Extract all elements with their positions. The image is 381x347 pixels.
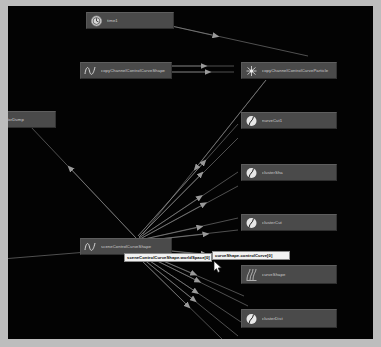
- edge-scene-to-clusterCut: [140, 218, 238, 240]
- edge-scene-lower-d-arrow: [136, 255, 188, 306]
- edge-particle-to-scene: [143, 80, 266, 234]
- connection-tooltip-source[interactable]: sceneControlCurveShape.worldSpace[0]: [124, 253, 212, 262]
- circle-icon: [244, 216, 259, 229]
- connection-tooltip-destination[interactable]: curveShape.controlCurve[0]: [212, 251, 290, 260]
- mouse-cursor: [213, 260, 223, 274]
- edge-scene-to-clusterSha-b: [140, 186, 238, 239]
- graph-node-clustercut[interactable]: clusterCut: [241, 214, 337, 231]
- graph-canvas[interactable]: time1 copyChannelControlCurveShape: [8, 6, 373, 339]
- node-label: time1: [107, 18, 173, 24]
- curve-icon: [83, 64, 98, 77]
- graph-node-copychannelcontrolcurveshape[interactable]: copyChannelControlCurveShape: [80, 62, 172, 79]
- deform-icon: [244, 268, 259, 281]
- particle-icon: [244, 64, 259, 77]
- edge-scene-to-nurveCut1: [138, 124, 238, 236]
- clock-icon: [89, 14, 104, 27]
- edge-scene-to-clusterDist: [138, 253, 244, 324]
- edge-time1-to-particle: [158, 23, 308, 56]
- edge-scene-to-nurveCut1-b-arrow: [139, 174, 201, 237]
- node-label: clusterDist: [262, 316, 336, 322]
- circle-icon: [244, 114, 259, 127]
- node-label: nurveCut1: [262, 118, 336, 124]
- circle-icon: [244, 312, 259, 325]
- edge-scene-to-nurveCut1-b: [139, 138, 238, 237]
- circle-icon: [244, 166, 259, 179]
- node-label: clusterCut: [262, 220, 336, 226]
- graph-node-copychannelcontrolcurveparticle[interactable]: copyChannelControlCurveParticle: [241, 62, 337, 79]
- hypergraph-window: time1 copyChannelControlCurveShape: [0, 0, 381, 347]
- node-label: curveShape: [262, 272, 336, 278]
- curve-icon: [83, 240, 98, 253]
- node-label: clusterSha: [262, 170, 336, 176]
- edge-scene-to-clusterSha-arrow: [139, 197, 200, 238]
- graph-node-time1[interactable]: time1: [86, 12, 174, 29]
- edge-scene-to-dump: [30, 126, 136, 238]
- graph-node-curveshape[interactable]: curveShape: [241, 265, 337, 284]
- graph-node-clusterdist[interactable]: clusterDist: [241, 309, 337, 328]
- graph-node-nurvecut1[interactable]: nurveCut1: [241, 112, 337, 129]
- edge-scene-to-clusterSha: [139, 172, 238, 238]
- node-label: curveColorDump: [8, 117, 55, 123]
- node-label: copyChannelControlCurveParticle: [262, 68, 336, 74]
- edge-scene-to-dump-arrow: [70, 168, 136, 238]
- edge-scene-to-clusterSha-b-arrow: [140, 204, 204, 239]
- node-label: copyChannelControlCurveShape: [101, 68, 171, 74]
- node-label: sceneControlCurveShape: [101, 244, 171, 250]
- graph-node-curvecolordump[interactable]: curveColorDump: [8, 111, 56, 128]
- edge-scene-lower-c: [137, 254, 238, 336]
- graph-node-clustersha[interactable]: clusterSha: [241, 164, 337, 181]
- edge-scene-to-nurveCut1-arrow: [138, 162, 204, 236]
- edge-scene-lower-d: [136, 255, 222, 339]
